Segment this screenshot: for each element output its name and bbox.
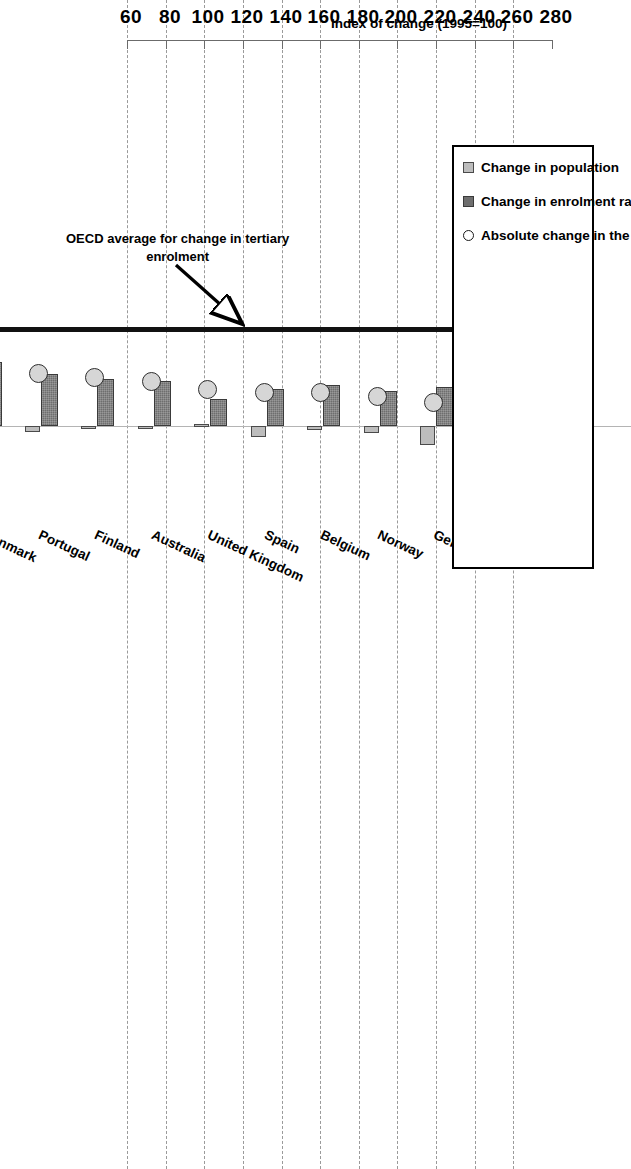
axis-tick-100: [204, 40, 205, 49]
legend-swatch-icon: [463, 196, 474, 207]
axis-tick-200: [397, 40, 398, 49]
category-label-norway: Norway: [375, 527, 426, 561]
gridline-180: [359, 0, 360, 1169]
value-axis-line: [128, 40, 553, 41]
bar-enrolment-8[interactable]: [97, 379, 114, 425]
gridline-200: [397, 0, 398, 1169]
axis-tick-80: [166, 40, 167, 49]
axis-tick-160: [320, 40, 321, 49]
axis-tick-120: [243, 40, 244, 49]
axis-tick-220: [436, 40, 437, 49]
legend-entry-2: Absolute change in the number of student…: [463, 228, 631, 243]
legend-swatch-icon: [463, 162, 474, 173]
gridline-140: [282, 0, 283, 1169]
gridline-80: [166, 0, 167, 1169]
axis-value-label: 100: [187, 6, 229, 28]
marker-students-5[interactable]: [255, 383, 274, 402]
gridline-220: [436, 0, 437, 1169]
category-label-finland: Finland: [93, 527, 143, 561]
bar-population-5[interactable]: [251, 426, 266, 438]
axis-tick-280: [552, 40, 553, 49]
gridline-120: [243, 0, 244, 1169]
axis-value-label: 140: [265, 6, 307, 28]
bar-population-7[interactable]: [138, 426, 153, 429]
axis-value-label: 80: [149, 6, 191, 28]
axis-value-label: 120: [226, 6, 268, 28]
bar-population-8[interactable]: [81, 426, 96, 429]
axis-tick-240: [475, 40, 476, 49]
gridline-60: [127, 0, 128, 1169]
category-label-portugal: Portugal: [36, 527, 92, 564]
legend-label: Change in population: [481, 160, 619, 175]
chart-canvas: 2802602402202001801601401201008060Canada…: [0, 0, 631, 1169]
category-label-belgium: Belgium: [318, 527, 373, 563]
bar-population-4[interactable]: [307, 426, 322, 430]
marker-students-7[interactable]: [142, 372, 161, 391]
gridline-100: [204, 0, 205, 1169]
marker-students-3[interactable]: [368, 387, 387, 406]
bar-population-3[interactable]: [364, 426, 379, 434]
category-label-denmark: Denmark: [0, 527, 39, 565]
gridline-160: [320, 0, 321, 1169]
bar-population-2[interactable]: [420, 426, 435, 445]
bar-population-9[interactable]: [25, 426, 40, 432]
marker-students-2[interactable]: [424, 393, 443, 412]
legend-circle-icon: [463, 230, 474, 241]
marker-students-9[interactable]: [29, 364, 48, 383]
legend-label: Absolute change in the number of student…: [481, 228, 631, 243]
oecd-annotation-text: OECD average for change in tertiaryenrol…: [66, 230, 289, 265]
axis-tick-180: [359, 40, 360, 49]
oecd-annotation-line1: OECD average for change in tertiary: [66, 230, 289, 248]
axis-tick-260: [513, 40, 514, 49]
bar-population-6[interactable]: [194, 424, 209, 427]
legend-label: Change in enrolment rates: [481, 194, 631, 209]
bar-enrolment-10[interactable]: [0, 362, 2, 426]
category-label-australia: Australia: [149, 527, 208, 565]
legend-entry-0: Change in population: [463, 160, 619, 175]
axis-value-label: 60: [110, 6, 152, 28]
bar-enrolment-6[interactable]: [210, 399, 227, 426]
axis-title: Index of change (1995=100): [331, 16, 507, 31]
plot-area: 2802602402202001801601401201008060Canada…: [0, 0, 631, 1169]
oecd-annotation-line2: enrolment: [66, 248, 289, 266]
axis-value-label: 280: [535, 6, 577, 28]
axis-tick-60: [127, 40, 128, 49]
category-label-united-kingdom: United Kingdom: [206, 527, 307, 585]
legend-entry-1: Change in enrolment rates: [463, 194, 631, 209]
axis-tick-140: [282, 40, 283, 49]
marker-students-6[interactable]: [198, 380, 217, 399]
